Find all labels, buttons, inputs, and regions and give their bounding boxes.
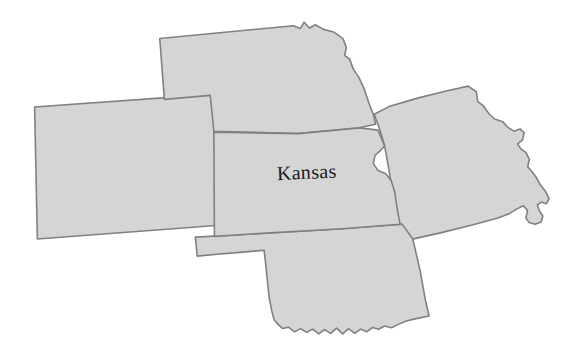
state-colorado[interactable] <box>31 94 226 239</box>
state-label-kansas: Kansas <box>276 160 336 185</box>
map-container: Kansas <box>0 0 579 359</box>
labels-group: Kansas <box>276 160 336 185</box>
regional-map: Kansas <box>0 0 579 359</box>
